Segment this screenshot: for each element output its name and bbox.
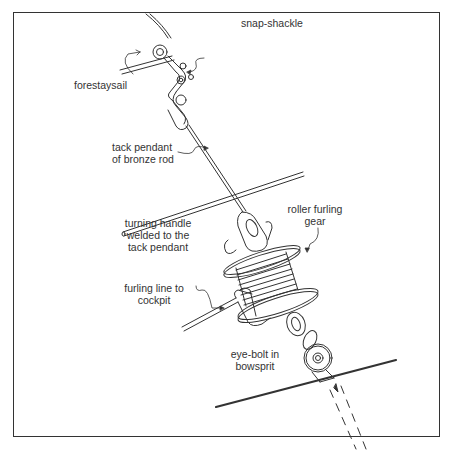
label-turning-handle-1: turning handle	[116, 217, 200, 229]
label-snap-shackle: snap-shackle	[241, 17, 303, 29]
forestay-line	[146, 14, 171, 38]
shackle-assembly	[153, 45, 194, 130]
drum	[221, 240, 320, 329]
eye-bolt-assembly	[283, 310, 334, 382]
tack-pendant-rod	[186, 125, 246, 212]
label-roller-furling-2: gear	[280, 215, 350, 227]
furling-line	[182, 288, 270, 331]
bowsprit-line	[216, 360, 396, 449]
label-roller-furling-1: roller furling	[280, 203, 350, 215]
label-furling-line-2: cockpit	[114, 294, 194, 306]
furling-gear-illustration	[0, 0, 454, 453]
label-forestaysail: forestaysail	[74, 79, 127, 91]
label-turning-handle-2: welded to the	[116, 229, 200, 241]
label-eye-bolt-1: eye-bolt in	[222, 348, 288, 360]
label-turning-handle-3: tack pendant	[116, 241, 200, 253]
swivel-head	[224, 212, 272, 254]
label-tack-pendant-1: tack pendant	[112, 141, 172, 153]
label-furling-line-1: furling line to	[114, 282, 194, 294]
label-tack-pendant-2: of bronze rod	[112, 153, 174, 165]
forestaysail-edge	[120, 56, 174, 74]
label-eye-bolt-2: bowsprit	[222, 360, 288, 372]
